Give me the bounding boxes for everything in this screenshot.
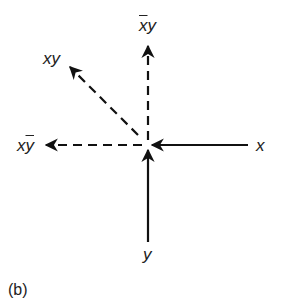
- label-x-ybar-y: y: [26, 136, 35, 155]
- label-x-ybar-x: x: [17, 136, 26, 155]
- label-xbar-y-x: x: [139, 16, 148, 35]
- figure-caption-text: (b): [8, 281, 28, 298]
- label-y: y: [143, 246, 152, 263]
- label-xbar-y: xy: [139, 17, 156, 34]
- label-x-text: x: [256, 136, 265, 155]
- figure-caption: (b): [8, 281, 28, 299]
- label-xy-text: xy: [43, 49, 60, 68]
- xy-output-arrow: [70, 67, 138, 135]
- balancer-diagram: [0, 0, 283, 308]
- label-xbar-y-y: y: [148, 16, 157, 35]
- label-x: x: [256, 137, 265, 154]
- label-y-text: y: [143, 245, 152, 264]
- label-xy: xy: [43, 50, 60, 67]
- label-x-ybar: xy: [17, 137, 34, 154]
